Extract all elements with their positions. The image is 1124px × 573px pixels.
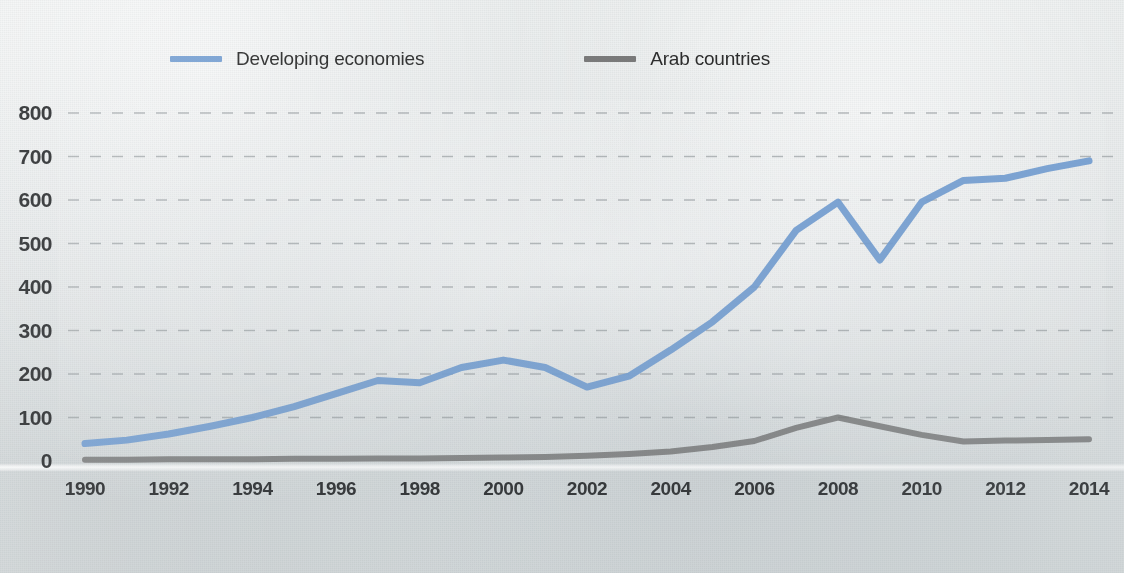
x-tick-label-1990: 1990 — [65, 478, 105, 500]
x-tick-label-1998: 1998 — [400, 478, 440, 500]
x-axis-tick-labels: 1990199219941996199820002002200420062008… — [0, 0, 1124, 573]
x-tick-label-2006: 2006 — [734, 478, 774, 500]
x-tick-label-2002: 2002 — [567, 478, 607, 500]
x-tick-label-2010: 2010 — [902, 478, 942, 500]
x-tick-label-2012: 2012 — [985, 478, 1025, 500]
x-tick-label-2000: 2000 — [483, 478, 523, 500]
x-tick-label-2004: 2004 — [651, 478, 691, 500]
x-tick-label-1994: 1994 — [232, 478, 272, 500]
x-tick-label-1992: 1992 — [149, 478, 189, 500]
x-tick-label-2014: 2014 — [1069, 478, 1109, 500]
chart-page: Developing economies Arab countries 8007… — [0, 0, 1124, 573]
x-tick-label-2008: 2008 — [818, 478, 858, 500]
x-tick-label-1996: 1996 — [316, 478, 356, 500]
